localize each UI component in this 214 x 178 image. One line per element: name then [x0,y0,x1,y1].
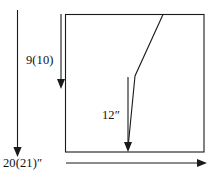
overall-height-label: 9(10) [26,54,54,67]
height-dimension-arrowhead [57,79,65,89]
diagram-canvas: 9(10) 12″ 20(21)″ [0,0,214,178]
inner-dimension-arrowhead [124,142,132,152]
geometry-figure [0,0,214,178]
overall-width-arrowhead [197,159,207,167]
overall-width-label: 20(21)″ [3,157,42,170]
inner-dimension-label: 12″ [102,109,120,122]
angled-cut-line [128,15,163,149]
